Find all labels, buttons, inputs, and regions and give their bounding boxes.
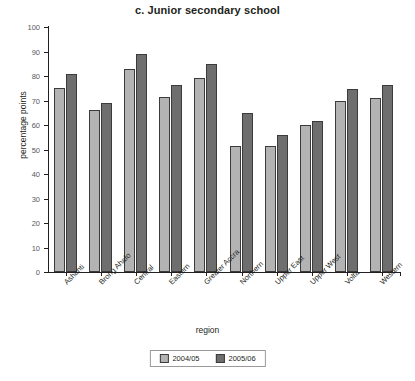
y-axis-tick-label: 70	[14, 96, 40, 105]
bar-group	[265, 27, 289, 272]
y-axis-tick-mark	[44, 272, 48, 273]
y-axis-tick-label: 20	[14, 219, 40, 228]
legend-item[interactable]: 2005/06	[216, 354, 256, 363]
x-axis-tick-mark	[400, 272, 401, 276]
y-axis-tick-label: 10	[14, 243, 40, 252]
bar[interactable]	[347, 89, 358, 272]
x-axis-label: region	[0, 325, 415, 335]
legend-label: 2004/05	[172, 354, 199, 363]
legend-label: 2005/06	[229, 354, 256, 363]
legend-swatch-2004-05-icon	[159, 354, 168, 363]
bar[interactable]	[265, 146, 276, 272]
y-axis-tick-label: 30	[14, 194, 40, 203]
y-axis-tick-label: 60	[14, 121, 40, 130]
bar[interactable]	[277, 135, 288, 272]
legend-item[interactable]: 2004/05	[159, 354, 199, 363]
bar[interactable]	[194, 78, 205, 272]
plot-area	[48, 27, 400, 272]
bar[interactable]	[206, 64, 217, 272]
y-axis-tick-label: 100	[14, 23, 40, 32]
bar[interactable]	[382, 85, 393, 272]
y-axis-tick-label: 0	[14, 268, 40, 277]
bar[interactable]	[124, 69, 135, 272]
bar-group	[54, 27, 78, 272]
bar-group	[300, 27, 324, 272]
bar[interactable]	[312, 121, 323, 272]
chart-legend: 2004/05 2005/06	[149, 350, 265, 367]
bar[interactable]	[335, 101, 346, 273]
y-axis-tick-label: 40	[14, 170, 40, 179]
bar-group	[370, 27, 394, 272]
bar[interactable]	[242, 113, 253, 272]
bar[interactable]	[159, 97, 170, 272]
y-axis-tick-label: 50	[14, 145, 40, 154]
bar[interactable]	[89, 110, 100, 272]
bar-group	[230, 27, 254, 272]
bar[interactable]	[370, 98, 381, 272]
bar-group	[194, 27, 218, 272]
bar-group	[89, 27, 113, 272]
y-axis-tick-label: 90	[14, 47, 40, 56]
bar-group	[159, 27, 183, 272]
chart-container: c. Junior secondary school percentage po…	[0, 0, 415, 381]
bar[interactable]	[171, 85, 182, 272]
legend-swatch-2005-06-icon	[216, 354, 225, 363]
y-axis-tick-label: 80	[14, 72, 40, 81]
bar[interactable]	[300, 125, 311, 272]
bar-group	[124, 27, 148, 272]
bar[interactable]	[54, 88, 65, 272]
bar[interactable]	[101, 103, 112, 272]
bar[interactable]	[66, 74, 77, 272]
chart-title: c. Junior secondary school	[0, 4, 415, 16]
bar-group	[335, 27, 359, 272]
bar[interactable]	[136, 54, 147, 272]
